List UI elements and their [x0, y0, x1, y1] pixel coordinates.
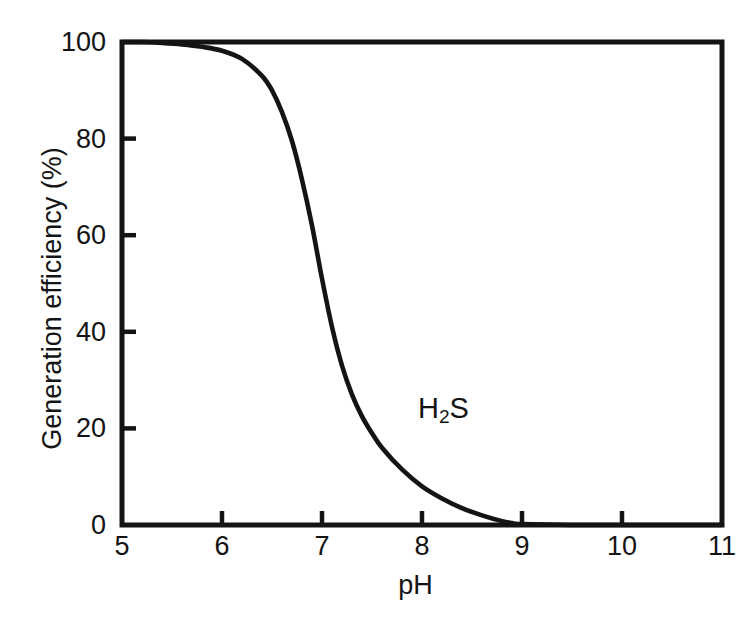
- y-axis-label: Generation efficiency (%): [37, 59, 68, 539]
- x-tick-label-5: 5: [114, 533, 129, 560]
- y-tick-label-100: 100: [0, 29, 106, 56]
- x-axis-label: pH: [0, 570, 755, 601]
- x-tick-label-10: 10: [607, 533, 637, 560]
- series-annotation-h2s: H2S: [418, 392, 469, 428]
- x-axis-label-text: pH: [398, 570, 433, 601]
- data-curve-h2s: [122, 42, 722, 525]
- annotation-h: H: [418, 392, 439, 424]
- annotation-s: S: [450, 392, 469, 424]
- x-tick-label-9: 9: [514, 533, 529, 560]
- chart-figure: 567891011 020406080100 pH Generation eff…: [0, 0, 755, 621]
- x-tick-label-7: 7: [314, 533, 329, 560]
- annotation-subscript: 2: [439, 406, 450, 427]
- x-tick-label-6: 6: [214, 533, 229, 560]
- plot-frame: [122, 42, 722, 525]
- x-tick-label-11: 11: [708, 533, 736, 560]
- x-tick-label-8: 8: [414, 533, 429, 560]
- chart-canvas: [0, 0, 755, 621]
